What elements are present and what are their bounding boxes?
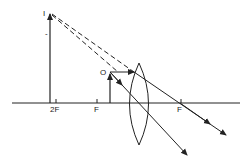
two-f-label: 2F <box>50 106 59 114</box>
f-right-label: F <box>177 106 182 114</box>
center-ray-midarrow <box>110 72 122 85</box>
virtual-ray-1 <box>52 14 134 72</box>
tick-mark-label: - <box>45 30 48 38</box>
refracted-ray-midarrow <box>180 103 210 124</box>
object-label: O <box>100 69 106 77</box>
image-label: I <box>43 10 45 18</box>
ray-diagram <box>0 0 245 164</box>
f-left-label: F <box>94 106 99 114</box>
virtual-ray-2 <box>52 15 118 72</box>
